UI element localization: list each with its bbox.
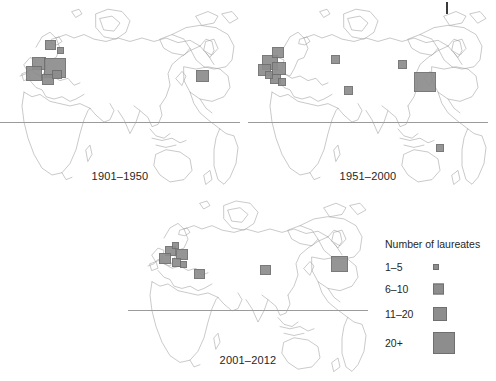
marker-france: [26, 66, 42, 81]
marker-scandinavia: [172, 242, 179, 249]
legend-title: Number of laureates: [385, 238, 493, 250]
equator-line-2: [248, 122, 488, 123]
equator-line-1: [0, 122, 240, 123]
legend-row-6-10: 6–10: [385, 277, 493, 301]
legend-row-1-5: 1–5: [385, 256, 493, 277]
equator-line-3: [128, 310, 368, 311]
panel-1901-1950: 1901–1950: [0, 0, 240, 190]
marker-canada: [398, 60, 407, 69]
nobel-laureates-map-figure: 1901–1950: [0, 0, 496, 381]
panel-caption-2: 1951–2000: [248, 170, 488, 182]
marker-israel: [194, 269, 205, 279]
marker-russia: [331, 55, 340, 64]
panel-caption-3: 2001–2012: [128, 354, 368, 366]
legend-label-20-plus: 20+: [385, 337, 403, 349]
marker-scandinavia: [272, 47, 284, 58]
legend-swatch-20-plus: [433, 332, 455, 354]
legend-swatch-11-20: [433, 307, 447, 321]
legend-swatch-6-10: [433, 284, 444, 295]
marker-baltic: [57, 47, 64, 54]
panel-1951-2000: 1951–2000: [248, 0, 488, 190]
legend-row-20-plus: 20+: [385, 327, 493, 359]
legend-label-6-10: 6–10: [385, 283, 408, 295]
legend: Number of laureates 1–5 6–10 11–20 20+: [385, 238, 493, 359]
panel-2001-2012: 2001–2012: [128, 192, 368, 377]
marker-united-states: [196, 70, 209, 82]
panel-caption-1: 1901–1950: [0, 170, 240, 182]
marker-netherlands: [265, 71, 273, 79]
world-map-2: [248, 0, 488, 190]
marker-argentina: [436, 144, 444, 152]
marker-united-states: [414, 72, 436, 92]
legend-label-11-20: 11–20: [385, 308, 413, 320]
marker-austria: [52, 70, 62, 79]
marker-united-states: [331, 256, 348, 272]
world-outline-svg-3: [128, 192, 368, 377]
marker-japan: [344, 86, 353, 95]
marker-france: [159, 253, 171, 264]
world-outline-svg-2: [248, 0, 488, 190]
marker-italy: [180, 261, 187, 268]
legend-swatch-1-5: [433, 264, 439, 270]
marker-italy: [278, 78, 286, 86]
marker-japan: [260, 265, 271, 275]
world-map-1: [0, 0, 240, 190]
legend-row-11-20: 11–20: [385, 301, 493, 327]
world-outline-svg-1: [0, 0, 240, 190]
marker-scandinavia: [45, 40, 56, 50]
world-map-3: [128, 192, 368, 377]
legend-label-1-5: 1–5: [385, 261, 403, 273]
